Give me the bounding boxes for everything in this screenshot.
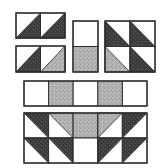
quilt-cell-dark-tri-br [16, 46, 41, 72]
quilt-cell-dark-tri-bl [130, 47, 155, 73]
quilt-cell-gray-tri-tr [49, 113, 74, 138]
quilt-cell-dark-tri-bl [105, 21, 130, 47]
quilt-cell-gray-square [73, 113, 98, 138]
quilt-cell-dark-tri-bl [130, 21, 155, 47]
quilt-cell-dark-tri-br [16, 13, 41, 38]
middle-strip-row [24, 81, 147, 106]
quilt-cell-dark-tri-tl [98, 138, 123, 163]
quilt-cell-white-square [73, 138, 98, 163]
quilt-cell-white-square [73, 21, 98, 47]
right-four-patch-unit [105, 21, 155, 72]
quilt-cell-gray-square [49, 81, 74, 106]
quilt-cell-dark-tri-tl [122, 138, 147, 163]
quilt-cell-dark-tri-tr [49, 138, 74, 163]
center-rectangle-unit [73, 21, 98, 72]
quilt-diagram [0, 0, 162, 168]
quilt-cell-gray-tri-tl [98, 113, 123, 138]
top-left-half-square-units [16, 13, 65, 38]
quilt-cell-dark-tri-tr [24, 113, 49, 138]
quilt-cell-white-square [73, 81, 98, 106]
quilt-cell-dark-tri-tl [122, 113, 147, 138]
quilt-cell-gray-tri-br [41, 46, 66, 72]
quilt-cell-gray-square [73, 47, 98, 73]
quilt-cell-gray-square [98, 81, 123, 106]
quilt-cell-white-square [24, 81, 49, 106]
quilt-cell-gray-tri-bl [105, 47, 130, 73]
second-left-half-square-units [16, 46, 65, 72]
quilt-cell-white-square [122, 81, 147, 106]
quilt-cell-dark-tri-tr [24, 138, 49, 163]
bottom-assembled-row [24, 113, 147, 163]
quilt-cell-dark-tri-br [41, 13, 66, 38]
